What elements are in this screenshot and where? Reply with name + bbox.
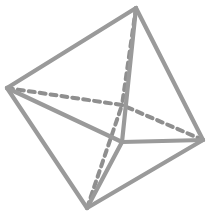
visible-edge-right-front xyxy=(122,140,203,142)
octahedron-figure xyxy=(0,0,210,219)
figure-canvas xyxy=(0,0,210,219)
